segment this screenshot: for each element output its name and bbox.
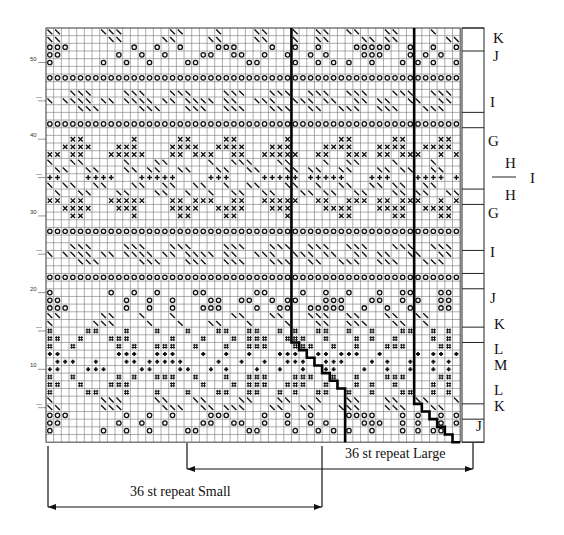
circle-stitch-icon <box>209 306 213 310</box>
section-label-J-3: J <box>476 418 482 435</box>
diagonal-stitch-icon <box>170 313 175 318</box>
square-stitch-icon <box>446 336 451 341</box>
circle-stitch-icon <box>370 53 374 57</box>
circle-stitch-icon <box>347 60 351 64</box>
diagonal-stitch-icon <box>278 244 283 249</box>
circle-stitch-icon <box>285 122 289 126</box>
circle-stitch-icon <box>324 298 328 302</box>
cross-stitch-icon <box>439 152 443 156</box>
circle-stitch-icon <box>439 275 443 279</box>
diagonal-stitch-icon <box>193 398 198 403</box>
diagonal-stitch-icon <box>209 405 214 410</box>
cross-stitch-icon <box>285 214 289 218</box>
circle-stitch-icon <box>393 275 397 279</box>
diagonal-stitch-icon <box>354 191 359 196</box>
circle-stitch-icon <box>270 122 274 126</box>
circle-stitch-icon <box>423 122 427 126</box>
circle-stitch-icon <box>48 122 52 126</box>
circle-stitch-icon <box>163 76 167 80</box>
plus-stitch-icon <box>55 175 60 180</box>
diagonal-stitch-icon <box>377 260 382 265</box>
diagonal-stitch-icon <box>385 29 390 34</box>
square-stitch-icon <box>293 374 298 379</box>
diagonal-stitch-icon <box>109 398 114 403</box>
diagonal-stitch-icon <box>377 106 382 111</box>
dot-stitch-icon <box>48 367 52 371</box>
diagonal-stitch-icon <box>55 29 60 34</box>
dot-stitch-icon <box>201 352 205 356</box>
diagonal-stitch-icon <box>270 244 275 249</box>
circle-stitch-icon <box>408 290 412 294</box>
dot-stitch-icon <box>293 360 297 364</box>
diagonal-stitch-icon <box>354 106 359 111</box>
circle-stitch-icon <box>186 275 190 279</box>
dot-stitch-icon <box>431 360 435 364</box>
diagonal-stitch-icon <box>162 191 167 196</box>
diagonal-stitch-icon <box>439 98 444 103</box>
diagonal-stitch-icon <box>293 37 298 42</box>
square-stitch-icon <box>262 382 267 387</box>
diagonal-stitch-icon <box>109 98 114 103</box>
plus-stitch-icon <box>423 175 428 180</box>
circle-stitch-icon <box>239 122 243 126</box>
circle-stitch-icon <box>308 413 312 417</box>
cross-stitch-icon <box>216 206 220 210</box>
diagonal-stitch-icon <box>416 398 421 403</box>
diagonal-stitch-icon <box>247 183 252 188</box>
diagonal-stitch-icon <box>162 252 167 257</box>
diagonal-stitch-icon <box>347 183 352 188</box>
circle-stitch-icon <box>147 122 151 126</box>
circle-stitch-icon <box>385 122 389 126</box>
square-stitch-icon <box>323 336 328 341</box>
circle-stitch-icon <box>186 122 190 126</box>
circle-stitch-icon <box>101 229 105 233</box>
circle-stitch-icon <box>170 298 174 302</box>
circle-stitch-icon <box>48 275 52 279</box>
circle-stitch-icon <box>147 306 151 310</box>
circle-stitch-icon <box>385 306 389 310</box>
cross-stitch-icon <box>400 137 404 141</box>
diagonal-stitch-icon <box>262 98 267 103</box>
circle-stitch-icon <box>347 76 351 80</box>
cross-stitch-icon <box>63 206 67 210</box>
dot-stitch-icon <box>431 367 435 371</box>
circle-stitch-icon <box>293 76 297 80</box>
diagonal-stitch-icon <box>278 405 283 410</box>
cross-stitch-icon <box>385 198 389 202</box>
diagonal-stitch-icon <box>193 183 198 188</box>
circle-stitch-icon <box>163 229 167 233</box>
square-stitch-icon <box>116 336 121 341</box>
circle-stitch-icon <box>163 122 167 126</box>
cross-stitch-icon <box>71 152 75 156</box>
dot-stitch-icon <box>385 360 389 364</box>
dot-stitch-icon <box>316 352 320 356</box>
circle-stitch-icon <box>55 76 59 80</box>
diagonal-stitch-icon <box>93 183 98 188</box>
cross-stitch-icon <box>454 198 458 202</box>
circle-stitch-icon <box>293 275 297 279</box>
diagonal-stitch-icon <box>293 29 298 34</box>
diagonal-stitch-icon <box>400 167 405 172</box>
cross-stitch-icon <box>262 152 266 156</box>
cross-stitch-icon <box>339 145 343 149</box>
cross-stitch-icon <box>193 198 197 202</box>
dot-stitch-icon <box>71 360 75 364</box>
diagonal-stitch-icon <box>400 183 405 188</box>
circle-stitch-icon <box>55 229 59 233</box>
diagonal-stitch-icon <box>377 252 382 257</box>
square-stitch-icon <box>354 336 359 341</box>
diagonal-stitch-icon <box>101 398 106 403</box>
circle-stitch-icon <box>48 421 52 425</box>
diagonal-stitch-icon <box>86 191 91 196</box>
circle-stitch-icon <box>117 275 121 279</box>
circle-stitch-icon <box>454 229 458 233</box>
diagonal-stitch-icon <box>423 106 428 111</box>
cross-stitch-icon <box>201 152 205 156</box>
circle-stitch-icon <box>416 421 420 425</box>
circle-stitch-icon <box>308 229 312 233</box>
cross-stitch-icon <box>186 145 190 149</box>
diagonal-stitch-icon <box>70 183 75 188</box>
diagonal-stitch-icon <box>132 244 137 249</box>
diagonal-stitch-icon <box>301 405 306 410</box>
diagonal-stitch-icon <box>339 167 344 172</box>
